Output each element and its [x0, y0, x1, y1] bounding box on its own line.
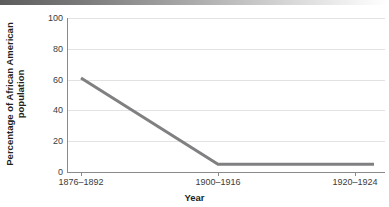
x-tick-label-1900-1916: 1900–1916 — [195, 177, 240, 187]
y-tick-label-100: 100 — [39, 14, 63, 23]
x-tick-mark-1920-1924 — [355, 172, 356, 176]
plot-area — [67, 18, 385, 172]
x-tick-mark-1900-1916 — [218, 172, 219, 176]
y-axis-title-line-2: population — [15, 22, 26, 165]
x-tick-label-1920-1924: 1920–1924 — [332, 177, 377, 187]
y-axis-title-line-1: Percentage of African American — [4, 22, 15, 165]
x-axis-title: Year — [0, 192, 389, 203]
series-line-percentage-of-african-american-population — [67, 18, 385, 172]
chart-figure: Percentage of African American populatio… — [0, 0, 389, 207]
header-gradient-rule — [0, 0, 389, 5]
y-tick-label-80: 80 — [39, 45, 63, 54]
y-tick-label-40: 40 — [39, 106, 63, 115]
x-tick-mark-1876-1892 — [81, 172, 82, 176]
y-tick-label-0: 0 — [39, 168, 63, 177]
x-tick-label-1876-1892: 1876–1892 — [58, 177, 103, 187]
y-axis-title: Percentage of African American populatio… — [0, 14, 30, 174]
y-axis-tick-labels: 100 80 60 40 20 0 — [36, 18, 63, 172]
x-axis-line — [67, 172, 385, 173]
y-tick-label-60: 60 — [39, 76, 63, 85]
y-tick-label-20: 20 — [39, 137, 63, 146]
series-polyline — [81, 78, 374, 164]
